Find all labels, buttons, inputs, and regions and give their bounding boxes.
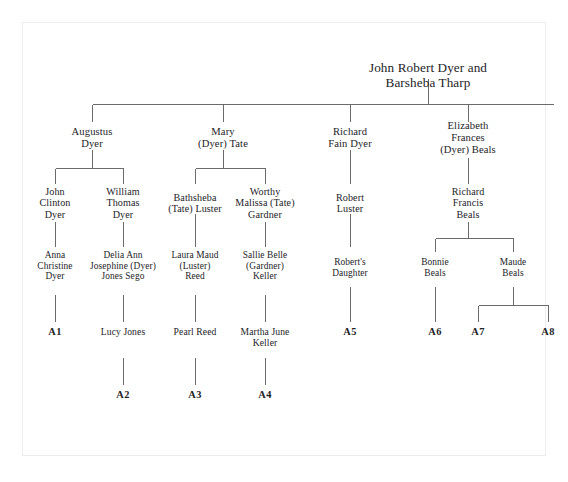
node-a1[interactable]: A1 xyxy=(48,326,61,338)
node-a6[interactable]: A6 xyxy=(428,326,441,338)
node-a5[interactable]: A5 xyxy=(343,326,356,338)
node-mary-dyer-tate[interactable]: Mary (Dyer) Tate xyxy=(198,126,248,150)
node-robert-luster[interactable]: Robert Luster xyxy=(336,192,364,215)
node-richard-francis-beals[interactable]: Richard Francis Beals xyxy=(452,186,485,220)
chart-page: John Robert Dyer and Barsheba Tharp Augu… xyxy=(0,0,568,482)
node-sallie-belle-gardner-keller[interactable]: Sallie Belle (Gardner) Keller xyxy=(243,250,288,282)
node-william-thomas-dyer[interactable]: William Thomas Dyer xyxy=(106,186,139,220)
node-pearl-reed[interactable]: Pearl Reed xyxy=(174,327,217,338)
node-augustus-dyer[interactable]: Augustus Dyer xyxy=(72,126,113,150)
node-a3[interactable]: A3 xyxy=(188,389,201,401)
node-a7[interactable]: A7 xyxy=(471,326,484,338)
node-martha-june-keller[interactable]: Martha June Keller xyxy=(241,327,290,348)
node-bonnie-beals[interactable]: Bonnie Beals xyxy=(421,257,449,278)
node-a2[interactable]: A2 xyxy=(116,389,129,401)
node-laura-maud-luster-reed[interactable]: Laura Maud (Luster) Reed xyxy=(171,250,218,282)
node-bathsheba-tate-luster[interactable]: Bathsheba (Tate) Luster xyxy=(168,192,222,215)
node-lucy-jones[interactable]: Lucy Jones xyxy=(101,327,145,338)
node-a4[interactable]: A4 xyxy=(258,389,271,401)
node-richard-fain-dyer[interactable]: Richard Fain Dyer xyxy=(328,126,372,150)
node-roberts-daughter[interactable]: Robert's Daughter xyxy=(332,257,368,278)
node-delia-ann-josephine-dyer-jones-sego[interactable]: Delia Ann Josephine (Dyer) Jones Sego xyxy=(90,250,156,282)
node-maude-beals[interactable]: Maude Beals xyxy=(500,257,527,278)
node-anna-christine-dyer[interactable]: Anna Christine Dyer xyxy=(37,250,72,282)
node-root-john-robert-dyer-and-barsheba-tharp[interactable]: John Robert Dyer and Barsheba Tharp xyxy=(358,61,498,91)
node-a8[interactable]: A8 xyxy=(541,326,554,338)
node-worthy-malissa-tate-gardner[interactable]: Worthy Malissa (Tate) Gardner xyxy=(235,186,294,220)
node-elizabeth-frances-dyer-beals[interactable]: Elizabeth Frances (Dyer) Beals xyxy=(440,120,496,156)
node-john-clinton-dyer[interactable]: John Clinton Dyer xyxy=(40,186,71,220)
